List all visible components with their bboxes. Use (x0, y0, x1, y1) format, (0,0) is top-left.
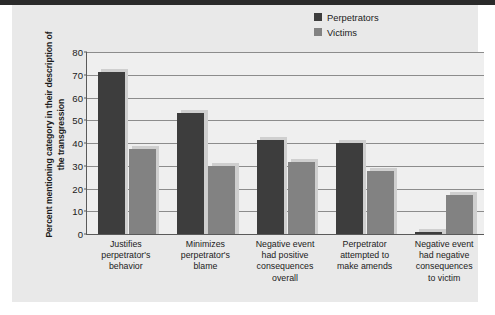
x-axis-category-label: Negative eventhad negativeconsequencesto… (404, 239, 484, 301)
bar[interactable] (129, 149, 156, 234)
y-axis-tick-label: 40 (72, 138, 83, 149)
x-axis-label-line: had negative (406, 250, 482, 261)
gridline (87, 120, 484, 121)
x-axis-label-line: Negative event (247, 239, 323, 250)
legend-item-victims[interactable]: Victims (314, 26, 379, 38)
y-axis-tick-label: 20 (72, 183, 83, 194)
y-axis-tick-mark (84, 74, 87, 75)
y-axis-tick-mark (84, 188, 87, 189)
chart-page-surface: Percent mentioning category in their des… (12, 5, 478, 302)
bar[interactable] (177, 113, 204, 234)
chart-figure: Percent mentioning category in their des… (0, 0, 495, 315)
x-axis-label-line: perpetrator's (168, 250, 244, 261)
x-axis-label-line: attempted to (327, 250, 403, 261)
bar[interactable] (208, 166, 235, 234)
bar[interactable] (257, 140, 284, 234)
x-axis-category-label: Perpetratorattempted tomake amends (325, 239, 405, 301)
legend-swatch-perpetrators (314, 13, 322, 21)
gridline (87, 52, 484, 53)
legend-swatch-victims (314, 28, 322, 36)
x-axis-label-line: Minimizes (168, 239, 244, 250)
x-axis-label-line: Perpetrator (327, 239, 403, 250)
x-axis-label-line: behavior (88, 261, 164, 272)
y-axis-tick-label: 60 (72, 92, 83, 103)
bar[interactable] (446, 195, 473, 234)
y-axis-tick-mark (84, 120, 87, 121)
y-axis-tick-mark (84, 143, 87, 144)
x-axis-label-line: to victim (406, 273, 482, 284)
gridline (87, 98, 484, 99)
x-axis-category-label: Justifiesperpetrator'sbehavior (86, 239, 166, 301)
x-axis-label-line: overall (247, 273, 323, 284)
y-axis-tick-label: 30 (72, 160, 83, 171)
y-axis-tick-label: 10 (72, 206, 83, 217)
x-axis-label-line: had positive (247, 250, 323, 261)
x-axis-category-label: Minimizesperpetrator'sblame (166, 239, 246, 301)
y-axis-tick-label: 80 (72, 47, 83, 58)
bar[interactable] (415, 232, 442, 234)
gridline (87, 75, 484, 76)
y-axis-tick-mark (84, 234, 87, 235)
x-axis-label-line: consequences (406, 261, 482, 272)
bar[interactable] (288, 162, 315, 234)
y-axis-title: Percent mentioning category in their des… (44, 30, 67, 240)
bar[interactable] (336, 143, 363, 234)
y-axis-tick-label: 50 (72, 115, 83, 126)
x-axis-label-line: blame (168, 261, 244, 272)
plot-area: 01020304050607080 (86, 52, 484, 235)
x-axis-label-line: perpetrator's (88, 250, 164, 261)
x-axis-category-label: Negative eventhad positiveconsequencesov… (245, 239, 325, 301)
y-axis-tick-mark (84, 165, 87, 166)
x-axis-label-line: Justifies (88, 239, 164, 250)
x-axis-label-line: consequences (247, 261, 323, 272)
x-axis-label-line: make amends (327, 261, 403, 272)
y-axis-tick-label: 0 (78, 229, 83, 240)
x-axis-label-line: Negative event (406, 239, 482, 250)
x-axis-category-labels: Justifiesperpetrator'sbehaviorMinimizesp… (86, 239, 484, 301)
legend-label-victims: Victims (327, 27, 357, 38)
y-axis-tick-mark (84, 97, 87, 98)
y-axis-tick-mark (84, 211, 87, 212)
bar[interactable] (98, 72, 125, 234)
y-axis-tick-label: 70 (72, 69, 83, 80)
y-axis-tick-mark (84, 52, 87, 53)
bar[interactable] (367, 171, 394, 234)
legend-item-perpetrators[interactable]: Perpetrators (314, 11, 379, 23)
legend-label-perpetrators: Perpetrators (327, 12, 379, 23)
chart-legend: Perpetrators Victims (314, 11, 379, 41)
